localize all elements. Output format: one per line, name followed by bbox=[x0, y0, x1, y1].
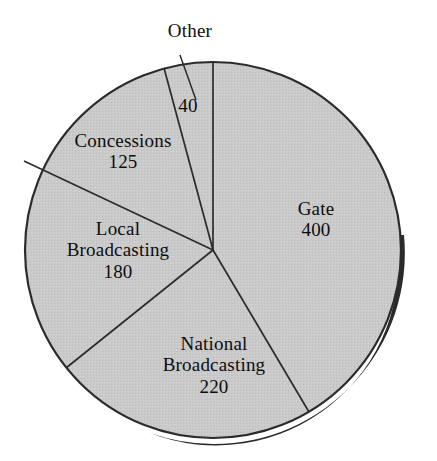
slice-label-national-broadcasting-line1: National bbox=[128, 333, 300, 354]
slice-value-national-broadcasting: 220 bbox=[128, 376, 300, 397]
slice-label-concessions-name: Concessions bbox=[48, 130, 198, 151]
slice-label-gate-name: Gate bbox=[264, 198, 368, 219]
slice-label-local-broadcasting-line2: Broadcasting bbox=[38, 239, 198, 260]
slice-label-gate: Gate 400 bbox=[264, 198, 368, 241]
pie-chart: Other 40 Concessions 125 Local Broadcast… bbox=[0, 0, 437, 461]
slice-label-local-broadcasting: Local Broadcasting 180 bbox=[38, 218, 198, 282]
slice-label-other-name: Other bbox=[130, 20, 250, 41]
slice-value-local-broadcasting: 180 bbox=[38, 261, 198, 282]
slice-label-other: Other bbox=[130, 20, 250, 41]
slice-value-concessions: 125 bbox=[48, 151, 198, 172]
slice-value-other: 40 bbox=[158, 95, 218, 116]
slice-value-gate: 400 bbox=[264, 219, 368, 240]
slice-label-national-broadcasting: National Broadcasting 220 bbox=[128, 333, 300, 397]
slice-label-local-broadcasting-line1: Local bbox=[38, 218, 198, 239]
slice-value-other-number: 40 bbox=[158, 95, 218, 116]
slice-label-concessions: Concessions 125 bbox=[48, 130, 198, 173]
slice-label-national-broadcasting-line2: Broadcasting bbox=[128, 354, 300, 375]
